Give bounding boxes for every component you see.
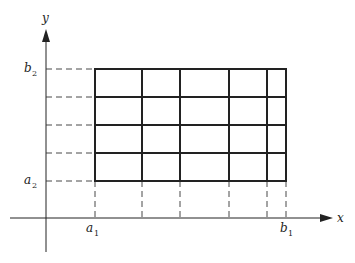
y-axis-arrow-icon bbox=[42, 29, 50, 42]
svg-text:2: 2 bbox=[32, 181, 37, 190]
partition-diagram: x y b 2 a 2 a 1 b bbox=[0, 0, 355, 263]
svg-text:a: a bbox=[24, 173, 31, 187]
x-axis-arrow-icon bbox=[320, 214, 333, 222]
axes bbox=[10, 40, 322, 252]
dashed-projections-y bbox=[46, 69, 95, 181]
svg-text:1: 1 bbox=[94, 229, 99, 238]
label-b1: b 1 bbox=[280, 221, 293, 238]
label-a1: a 1 bbox=[86, 221, 99, 238]
label-b2: b 2 bbox=[24, 61, 37, 78]
svg-text:a: a bbox=[86, 221, 93, 235]
svg-text:1: 1 bbox=[288, 229, 293, 238]
x-axis-label: x bbox=[337, 211, 344, 225]
svg-text:b: b bbox=[280, 221, 288, 235]
svg-text:b: b bbox=[24, 61, 32, 75]
y-axis-label: y bbox=[41, 11, 49, 25]
label-a2: a 2 bbox=[24, 173, 37, 190]
svg-text:2: 2 bbox=[32, 69, 37, 78]
partition-grid bbox=[95, 69, 286, 181]
dashed-projections-x bbox=[95, 181, 286, 218]
